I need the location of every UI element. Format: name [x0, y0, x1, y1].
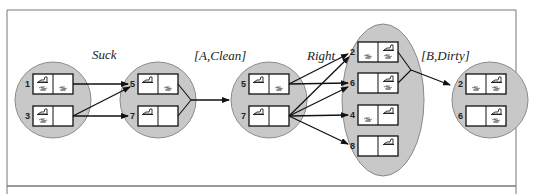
belief-state-b4: 2648 — [342, 24, 424, 176]
right-arrow-7-8 — [289, 116, 348, 144]
state-number: 4 — [350, 110, 355, 120]
belief-state-diagram: Suck [A,Clean] Right [B,Dirty] 135757264… — [0, 0, 539, 194]
state-number: 6 — [458, 111, 463, 121]
action-label-suck: Suck — [92, 47, 117, 62]
percept-label-b-dirty: [B,Dirty] — [421, 48, 470, 63]
state-number: 3 — [25, 111, 30, 121]
state-number: 6 — [350, 78, 355, 88]
state-number: 7 — [241, 111, 246, 121]
state-number: 2 — [458, 79, 463, 89]
state-number: 1 — [25, 79, 30, 89]
action-label-right: Right — [306, 48, 336, 63]
state-number: 7 — [130, 111, 135, 121]
belief-state-b2: 57 — [120, 62, 196, 138]
state-number: 5 — [241, 79, 246, 89]
belief-state-b5: 26 — [452, 62, 528, 138]
state-number: 8 — [350, 141, 355, 151]
belief-state-b3: 57 — [231, 62, 307, 138]
state-number: 2 — [350, 47, 355, 57]
diagram-canvas: Suck [A,Clean] Right [B,Dirty] 135757264… — [0, 0, 539, 194]
belief-state-b1: 13 — [15, 62, 91, 138]
percept-label-a-clean: [A,Clean] — [194, 48, 246, 63]
state-number: 5 — [130, 79, 135, 89]
